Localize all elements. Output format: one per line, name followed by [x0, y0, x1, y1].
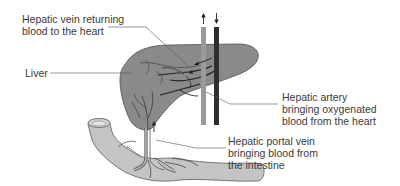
hepatic-artery-label: Hepatic artery bringing oxygenated blood… [282, 91, 377, 128]
hepatic-portal-vein-label: Hepatic portal vein bringing blood from … [228, 135, 318, 172]
hepatic-vein-label-line1: Hepatic vein returning [22, 13, 124, 25]
hepatic-vein-vessel [201, 13, 206, 125]
hepatic-vein-up-arrow-icon [201, 13, 205, 24]
hepatic-artery-down-arrow-icon [214, 13, 218, 24]
hepatic-artery-vessel [214, 13, 219, 125]
hepatic-portal-vein-label-line2: bringing blood from [228, 147, 318, 159]
liver-blood-supply-diagram: Hepatic vein returning blood to the hear… [0, 0, 400, 186]
hepatic-artery-label-line2: bringing oxygenated [282, 103, 377, 115]
hepatic-portal-vein-label-line3: the intestine [228, 159, 318, 171]
hepatic-vein-label-line2: blood to the heart [22, 25, 124, 37]
hepatic-artery-label-line1: Hepatic artery [282, 91, 377, 103]
portal-vein-leader-line [156, 140, 226, 148]
hepatic-portal-vein-label-line1: Hepatic portal vein [228, 135, 318, 147]
hepatic-vein-label: Hepatic vein returning blood to the hear… [22, 13, 124, 37]
liver [120, 44, 258, 130]
liver-label-line1: Liver [25, 67, 48, 79]
hepatic-artery-label-line3: blood from the heart [282, 115, 377, 127]
liver-label: Liver [25, 67, 48, 79]
